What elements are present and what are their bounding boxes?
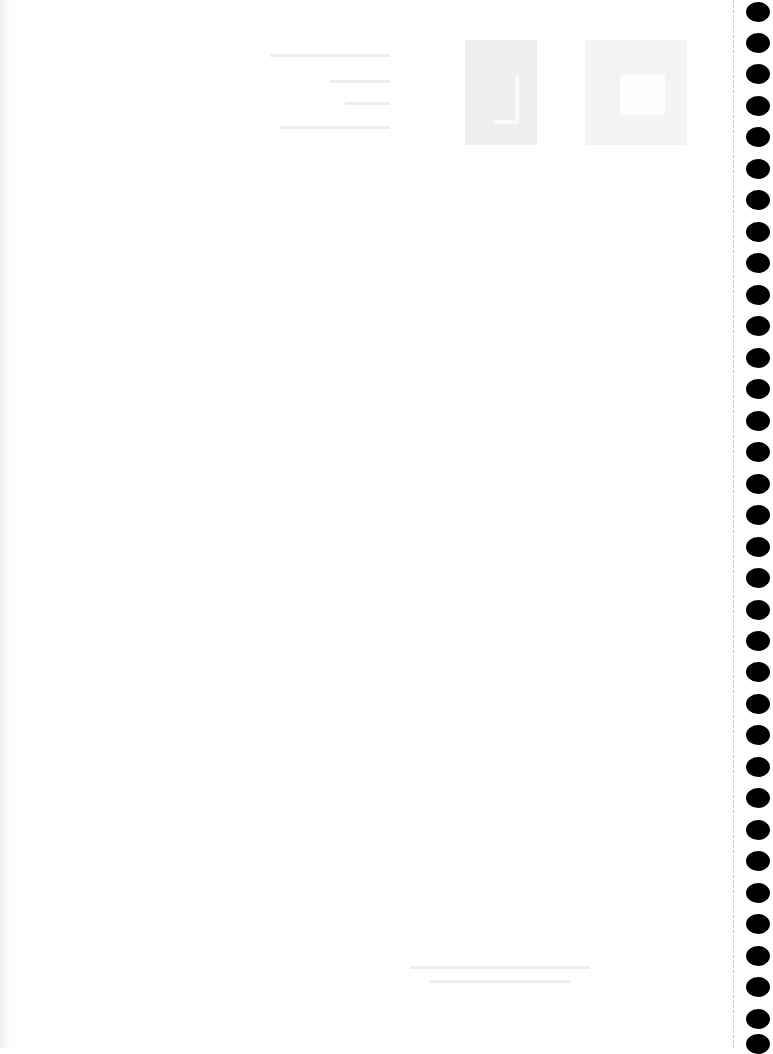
binding-hole — [746, 914, 770, 934]
binding-hole — [746, 379, 770, 399]
binding-hole — [746, 348, 770, 368]
binding-hole — [746, 253, 770, 273]
binding-hole — [746, 631, 770, 651]
binding-hole — [746, 537, 770, 557]
binding-hole — [746, 64, 770, 84]
perforation-line — [733, 0, 734, 1048]
bleed-through-line — [345, 102, 390, 105]
binding-holes — [745, 0, 773, 1048]
binding-hole — [746, 662, 770, 682]
bleed-through-figure — [465, 40, 537, 145]
binding-hole — [746, 127, 770, 147]
bleed-through-line — [280, 126, 390, 129]
binding-hole — [746, 96, 770, 116]
bleed-through-line — [270, 54, 390, 57]
binding-hole — [746, 1009, 770, 1029]
binding-hole — [746, 820, 770, 840]
bleed-through-figure — [585, 40, 687, 145]
binding-hole — [746, 474, 770, 494]
binding-hole — [746, 757, 770, 777]
binding-hole — [746, 1034, 770, 1054]
binding-hole — [746, 159, 770, 179]
bleed-through-line — [430, 980, 570, 983]
binding-hole — [746, 316, 770, 336]
binding-hole — [746, 33, 770, 53]
binding-hole — [746, 851, 770, 871]
binding-hole — [746, 222, 770, 242]
bleed-through-line — [330, 80, 390, 83]
bleed-through-line — [410, 966, 590, 969]
binding-hole — [746, 505, 770, 525]
binding-hole — [746, 725, 770, 745]
binding-hole — [746, 442, 770, 462]
binding-hole — [746, 2, 770, 22]
binding-hole — [746, 883, 770, 903]
binding-hole — [746, 190, 770, 210]
binding-hole — [746, 977, 770, 997]
binding-hole — [746, 694, 770, 714]
binding-hole — [746, 600, 770, 620]
binding-hole — [746, 411, 770, 431]
binding-hole — [746, 788, 770, 808]
binding-hole — [746, 285, 770, 305]
binding-hole — [746, 946, 770, 966]
binding-hole — [746, 568, 770, 588]
